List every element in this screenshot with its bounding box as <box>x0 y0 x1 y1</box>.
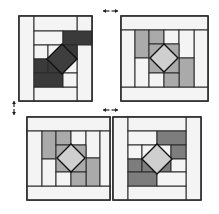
block-bottom-right <box>113 117 201 200</box>
quilt-patch <box>113 117 128 200</box>
quilt-patch <box>86 158 100 186</box>
quilt-patch <box>63 31 92 45</box>
quilt-patch <box>27 117 110 131</box>
quilt-patch <box>135 58 149 87</box>
arrow-top-horizontal-icon <box>103 9 118 13</box>
quilt-patch <box>27 186 110 200</box>
quilt-patch <box>42 131 56 159</box>
quilt-patch <box>34 16 77 31</box>
quilt-diagram <box>0 0 219 214</box>
quilt-patch <box>86 131 100 158</box>
quilt-patch <box>149 30 164 44</box>
quilt-patch <box>179 58 194 87</box>
quilt-patch <box>27 131 42 186</box>
quilt-patch <box>34 31 63 45</box>
quilt-patch <box>56 131 71 145</box>
quilt-patch <box>128 131 157 145</box>
quilt-patch <box>128 172 157 186</box>
quilt-patch <box>34 59 48 73</box>
quilt-patch <box>157 131 186 145</box>
quilt-patch <box>63 73 77 87</box>
quilt-patch <box>128 117 186 131</box>
quilt-patch <box>135 30 149 58</box>
quilt-patch <box>34 73 63 87</box>
quilt-patch <box>121 87 208 101</box>
quilt-patch <box>194 30 208 87</box>
quilt-patch <box>19 16 34 101</box>
quilt-patch <box>56 172 71 186</box>
quilt-patch <box>71 172 86 186</box>
arrow-middle-horizontal-icon <box>103 108 118 112</box>
quilt-patch <box>77 16 92 101</box>
quilt-patch <box>149 73 164 87</box>
block-top-left <box>19 16 92 101</box>
block-top-right <box>121 16 208 101</box>
quilt-patch <box>128 145 142 159</box>
quilt-patch <box>171 145 186 159</box>
quilt-patch <box>71 131 86 145</box>
quilt-patch <box>157 172 186 186</box>
arrow-left-vertical-icon <box>12 101 16 115</box>
quilt-patch <box>100 131 110 186</box>
quilt-patch <box>34 45 48 59</box>
quilt-patch <box>128 186 186 200</box>
quilt-patch <box>121 16 208 30</box>
block-bottom-left <box>27 117 110 200</box>
quilt-patch <box>121 30 135 87</box>
quilt-patch <box>186 117 201 200</box>
quilt-patch <box>34 87 77 101</box>
quilt-patch <box>164 30 179 44</box>
quilt-patch <box>179 30 194 58</box>
quilt-patch <box>171 159 186 172</box>
quilt-patch <box>164 73 179 87</box>
quilt-patch <box>128 159 142 172</box>
quilt-patch <box>42 159 56 186</box>
